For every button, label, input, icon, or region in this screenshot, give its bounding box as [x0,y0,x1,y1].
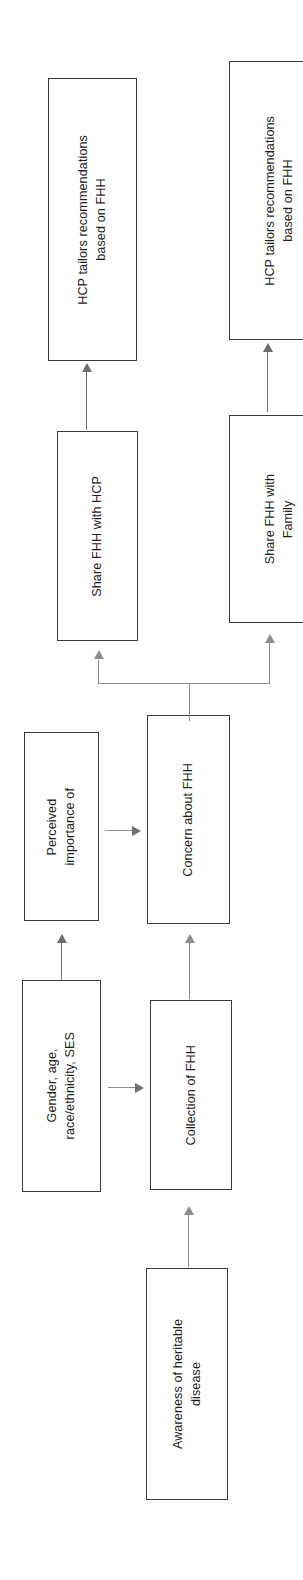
node-awareness-label: Awareness of heritable disease [167,1313,208,1455]
node-collection-fhh: Collection of FHH [150,1000,232,1190]
node-concern-fhh: Concern about FHH [147,715,230,924]
edge-share-hcp-to-tailors-line [86,372,87,430]
node-awareness: Awareness of heritable disease [146,1268,228,1500]
node-share-family: Share FHH with Family [229,415,303,623]
edge-concern-branch-bar [98,683,270,684]
edge-demographics-to-collection-arrowhead [135,1083,144,1093]
node-share-hcp-label: Share FHH with HCP [86,470,108,603]
edge-perceived-to-concern-arrowhead [132,826,141,836]
edge-concern-to-share-family-line [269,643,270,684]
node-concern-fhh-label: Concern about FHH [177,757,199,883]
node-demographics: Gender, age, race/ethnicity, SES [22,980,101,1192]
edge-demographics-to-collection-line [108,1087,136,1088]
node-demographics-label: Gender, age, race/ethnicity, SES [41,1026,82,1145]
node-hcp-tailors-top-label: HCP tailors recommendations based on FHH [72,129,113,311]
edge-concern-to-share-hcp-arrowhead [94,650,104,659]
node-perceived-importance: Perceived importance of [24,732,99,921]
edge-demographics-to-perceived-arrowhead [57,934,67,943]
node-hcp-tailors-bottom-label: HCP tailors recommendations based on FHH [259,110,300,292]
node-hcp-tailors-top: HCP tailors recommendations based on FHH [48,78,137,361]
edge-concern-to-share-family-arrowhead [265,634,275,643]
edge-awareness-to-collection-line [188,1215,189,1267]
node-collection-fhh-label: Collection of FHH [180,1039,202,1151]
edge-share-family-to-tailors-line [267,352,268,412]
node-share-hcp: Share FHH with HCP [57,431,138,641]
edge-concern-to-share-hcp-line [98,660,99,684]
node-perceived-importance-label: Perceived importance of [41,782,82,872]
edge-collection-to-concern-line [189,943,190,999]
edge-concern-branch-stem [189,683,190,721]
edge-demographics-to-perceived-line [61,943,62,981]
edge-perceived-to-concern-line [105,830,133,831]
edge-share-family-to-tailors-arrowhead [263,343,273,352]
node-hcp-tailors-bottom: HCP tailors recommendations based on FHH [229,61,303,340]
edge-collection-to-concern-arrowhead [185,934,195,943]
node-share-family-label: Share FHH with Family [259,468,300,570]
flowchart-canvas: HCP tailors recommendations based on FHH… [0,0,303,1580]
edge-awareness-to-collection-arrowhead [184,1206,194,1215]
edge-share-hcp-to-tailors-arrowhead [82,363,92,372]
